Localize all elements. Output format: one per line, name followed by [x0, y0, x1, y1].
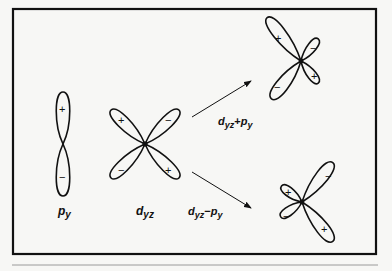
p-y-sign-lower: −: [59, 171, 65, 183]
p-y-upper-lobe: [56, 92, 70, 144]
d-yz-sign-ur: −: [165, 114, 171, 126]
hybrid-diff-sign-ur: −: [325, 170, 331, 182]
d-yz-lobe-upper-left: [107, 106, 149, 148]
d-yz-lobe-lower-left: [107, 140, 149, 182]
hybrid-sum-lobe-ll: [266, 57, 306, 103]
difference-label: dyz−py: [188, 205, 223, 220]
arrow-to-difference: [192, 172, 251, 208]
hybrid-sum-sign-ur: −: [310, 42, 316, 54]
hybrid-sum-lobe-ul: [262, 14, 306, 65]
hybrid-sum-sign-ul: +: [275, 32, 281, 44]
hybrid-diff-sign-lr: +: [321, 223, 327, 235]
orbital-mixing-diagram: + − + − − + py dyz dyz+py dyz−py: [0, 0, 392, 271]
p-y-sign-upper: +: [59, 103, 65, 115]
hybrid-diff-sign-ll: −: [283, 210, 289, 222]
hybrid-sum-sign-lr: +: [311, 70, 317, 82]
hybrid-sum-orbital: [262, 14, 322, 103]
hybrid-diff-lobe-lr: [297, 198, 338, 245]
d-yz-label: dyz: [136, 204, 154, 220]
d-yz-lobe-upper-right: [141, 106, 183, 148]
d-yz-sign-ul: +: [118, 114, 124, 126]
arrow-to-sum: [192, 81, 251, 117]
d-yz-sign-ll: −: [118, 164, 124, 176]
hybrid-diff-lobe-ur: [297, 159, 338, 206]
p-y-lower-lobe: [56, 144, 70, 196]
hybrid-diff-sign-ul: +: [285, 186, 291, 198]
sum-label: dyz+py: [218, 115, 253, 130]
p-y-label: py: [57, 204, 71, 220]
hybrid-sum-sign-ll: −: [274, 81, 280, 93]
d-yz-lobe-lower-right: [141, 140, 183, 182]
d-yz-sign-lr: +: [165, 164, 171, 176]
